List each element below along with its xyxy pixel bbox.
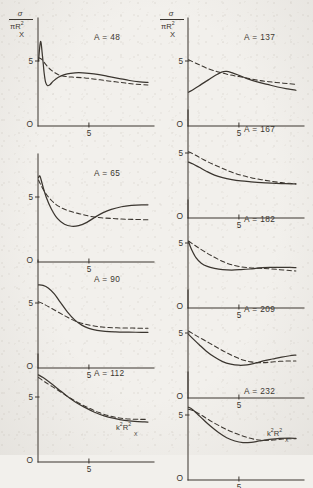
x-tick-label: 5 [237,483,242,488]
solid-curve [189,71,296,92]
solid-curve [189,334,296,365]
dashed-curve [189,152,296,184]
x-tick-label: 5 [87,465,92,474]
solid-curve [189,407,296,442]
y-tick-label: 5 [28,193,33,202]
y-axis-sigma-right: σ [169,9,174,18]
dashed-curve [189,241,296,271]
y-axis-sigma-left: σ [18,9,23,18]
origin-label: O [26,119,33,129]
panel-label: A = 90 [94,274,120,284]
chart-panel-a-65: 5 5 O A = 65 [26,150,154,270]
solid-curve [189,162,296,184]
solid-curve [189,242,296,270]
panel-label: A = 167 [244,124,275,134]
y-axis-sup-right: 2 [172,20,175,26]
panel-label: A = 182 [244,214,275,224]
chart-panel-a-48: 5 5 O A = 48 [26,14,154,134]
solid-curve [39,375,148,422]
panel-label: A = 65 [94,168,120,178]
dashed-curve [39,302,148,329]
panel-label: A = 112 [94,368,125,378]
dashed-curve [189,409,296,440]
solid-curve [39,285,148,332]
origin-label: O [176,473,183,483]
y-tick-label: 5 [178,411,183,420]
y-tick-label: 5 [28,57,33,66]
y-tick-label: 5 [178,329,183,338]
panel-label: A = 232 [244,386,275,396]
y-axis-sub-left: X [19,30,24,39]
y-tick-label: 5 [178,239,183,248]
chart-panel-a-232: 5 5 O A = 232 [176,368,304,488]
dashed-curve [189,60,296,85]
solid-curve [39,176,148,227]
panel-label: A = 209 [244,304,275,314]
y-tick-label: 5 [28,393,33,402]
dashed-curve [39,378,148,420]
y-axis-sub-right: X [170,30,175,39]
y-tick-label: 5 [178,57,183,66]
y-axis-sup-left: 2 [21,20,24,26]
dashed-curve [39,180,148,220]
y-tick-label: 5 [28,299,33,308]
x-tick-label: 5 [87,129,92,138]
origin-label: O [26,455,33,465]
panel-label: A = 137 [244,32,275,42]
chart-panel-a-112: 5 5 O A = 112 [26,350,154,470]
panel-label: A = 48 [94,32,120,42]
y-tick-label: 5 [178,149,183,158]
